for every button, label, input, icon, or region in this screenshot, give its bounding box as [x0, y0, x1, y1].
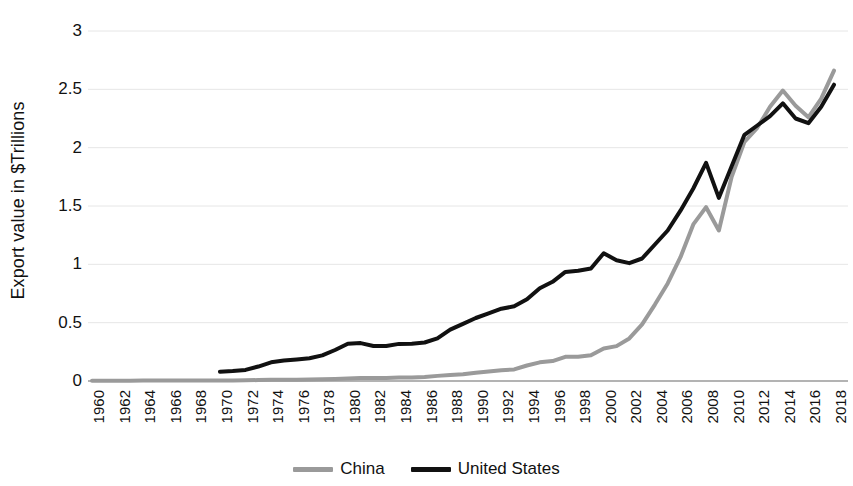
legend-entry-united-states[interactable]: United States	[411, 459, 560, 479]
x-tick-label: 2016	[806, 390, 823, 423]
x-tick-label: 1962	[115, 390, 132, 423]
x-tick-label: 1998	[576, 390, 593, 423]
y-tick-label: 1.5	[36, 196, 82, 216]
plot-svg	[88, 18, 848, 390]
y-tick-label: 3	[36, 21, 82, 41]
x-tick-label: 1990	[473, 390, 490, 423]
chart-legend: ChinaUnited States	[0, 456, 853, 482]
x-tick-label: 1974	[269, 390, 286, 423]
x-tick-label: 1982	[371, 390, 388, 423]
series-lines	[92, 71, 834, 381]
x-tick-label: 2004	[652, 390, 669, 423]
x-tick-label: 2012	[755, 390, 772, 423]
x-axis-tick-labels: 1960196219641966196819701972197419761978…	[88, 386, 848, 448]
x-tick-label: 1994	[524, 390, 541, 423]
x-tick-label: 1966	[166, 390, 183, 423]
legend-entry-china[interactable]: China	[293, 459, 384, 479]
x-tick-label: 1968	[192, 390, 209, 423]
series-line-united-states	[220, 85, 834, 372]
legend-label: China	[340, 459, 384, 479]
plot-area	[88, 18, 848, 390]
x-tick-label: 1976	[294, 390, 311, 423]
x-tick-label: 1964	[141, 390, 158, 423]
x-tick-label: 2010	[729, 390, 746, 423]
y-tick-label: 0.5	[36, 313, 82, 333]
x-tick-label: 2018	[832, 390, 849, 423]
x-tick-label: 1986	[422, 390, 439, 423]
y-axis-tick-labels: 00.511.522.53	[30, 0, 82, 486]
x-tick-label: 2008	[704, 390, 721, 423]
y-tick-label: 2	[36, 138, 82, 158]
y-tick-label: 1	[36, 254, 82, 274]
export-value-line-chart: Export value in $Trillions 00.511.522.53…	[0, 0, 853, 486]
x-tick-label: 1996	[550, 390, 567, 423]
x-tick-label: 1980	[345, 390, 362, 423]
y-axis-title-label: Export value in $Trillions	[8, 101, 29, 299]
x-tick-label: 1970	[217, 390, 234, 423]
x-tick-label: 1984	[397, 390, 414, 423]
series-line-china	[92, 71, 834, 381]
x-tick-label: 1978	[320, 390, 337, 423]
gridlines	[88, 31, 848, 381]
y-tick-label: 0	[36, 371, 82, 391]
x-tick-label: 2000	[601, 390, 618, 423]
x-tick-label: 1960	[90, 390, 107, 423]
x-tick-label: 2014	[780, 390, 797, 423]
legend-swatch	[293, 467, 333, 472]
x-tick-label: 1972	[243, 390, 260, 423]
y-tick-label: 2.5	[36, 79, 82, 99]
legend-label: United States	[458, 459, 560, 479]
x-tick-label: 2006	[678, 390, 695, 423]
x-tick-label: 1992	[499, 390, 516, 423]
x-tick-label: 1988	[448, 390, 465, 423]
legend-swatch	[411, 467, 451, 472]
x-tick-label: 2002	[627, 390, 644, 423]
